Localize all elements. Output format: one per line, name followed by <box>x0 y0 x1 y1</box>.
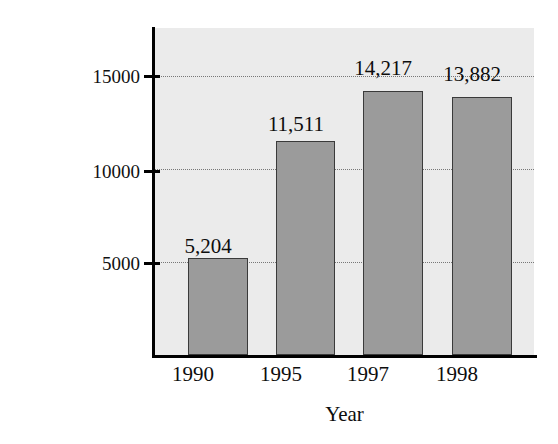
bar-1998 <box>452 97 512 355</box>
x-tick-label-1998: 1998 <box>422 364 492 385</box>
bar-1997 <box>363 91 423 355</box>
bar-chart-figure: Number of Instant Lottery Tickets Sold (… <box>0 0 558 444</box>
x-tick-label-1997: 1997 <box>333 364 403 385</box>
y-tick-label-5000: 5000 <box>78 254 140 273</box>
y-tick-label-15000-holder: 15000 <box>74 67 140 86</box>
x-axis-title: Year <box>155 402 534 427</box>
x-axis-line <box>152 355 537 358</box>
x-tick-label-1990: 1990 <box>158 364 228 385</box>
y-tick-mark-15000 <box>144 75 160 78</box>
bar-1995 <box>276 141 335 355</box>
y-tick-label-10000-holder: 10000 <box>74 162 140 181</box>
y-tick-label-10000: 10000 <box>78 162 140 181</box>
bar-value-1990: 5,204 <box>158 236 258 257</box>
y-tick-mark-5000 <box>144 262 160 265</box>
y-tick-mark-10000 <box>144 170 160 173</box>
bar-1990 <box>188 258 248 355</box>
x-tick-label-1995: 1995 <box>246 364 316 385</box>
bar-value-1995: 11,511 <box>246 114 346 135</box>
bar-value-1997: 14,217 <box>333 58 433 79</box>
bar-value-1998: 13,882 <box>422 64 522 85</box>
y-tick-label-5000-holder: 5000 <box>74 254 140 273</box>
y-tick-label-15000: 15000 <box>78 67 140 86</box>
